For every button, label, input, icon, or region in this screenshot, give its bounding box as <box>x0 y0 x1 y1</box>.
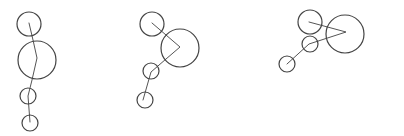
figure-3 <box>279 10 364 72</box>
figure-1 <box>17 12 56 131</box>
connector-line <box>143 23 180 100</box>
connector-line <box>287 22 346 64</box>
node-circle-large <box>326 15 364 53</box>
node-circle <box>143 63 159 79</box>
diagram-canvas <box>0 0 404 136</box>
figure-2 <box>137 12 199 108</box>
node-circle <box>140 12 164 36</box>
connector-line <box>28 23 37 122</box>
node-circle-large <box>161 29 199 67</box>
